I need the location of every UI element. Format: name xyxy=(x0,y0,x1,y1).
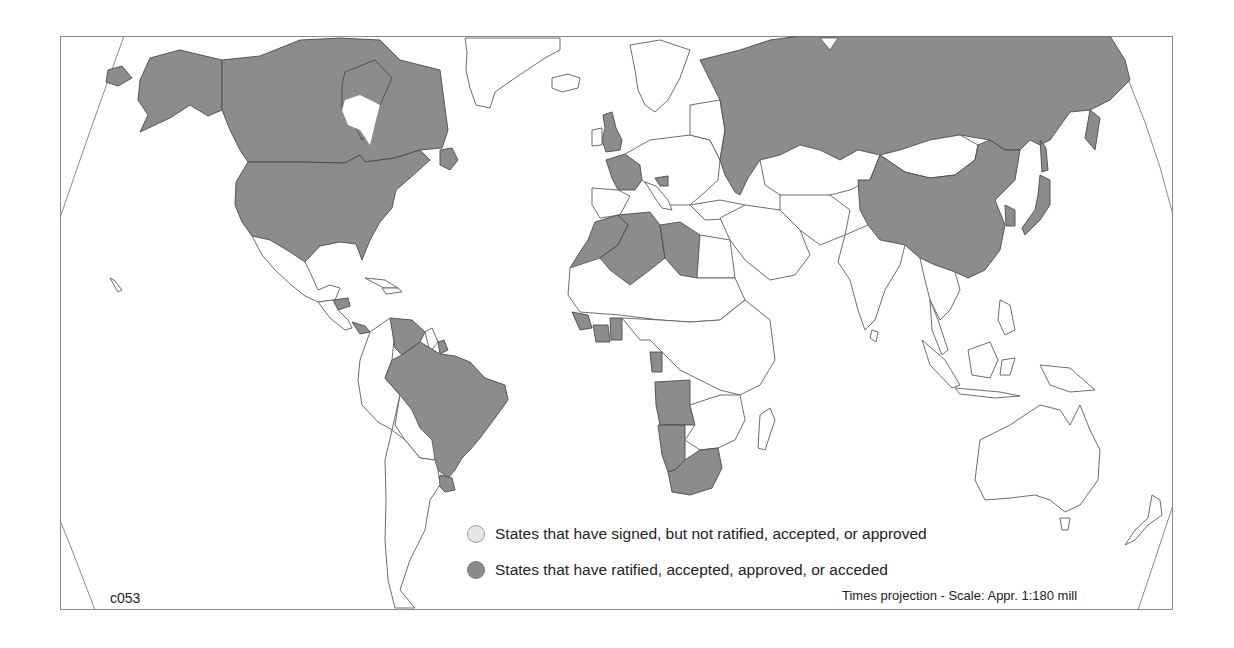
legend-item-ratified: States that have ratified, accepted, app… xyxy=(467,552,927,588)
ireland xyxy=(592,128,602,146)
new-zealand xyxy=(1125,495,1162,545)
projection-edge-left xyxy=(60,36,124,218)
south-korea xyxy=(1005,205,1015,226)
philippines xyxy=(998,300,1015,335)
cuba xyxy=(365,278,398,288)
angola xyxy=(655,380,695,425)
new-guinea xyxy=(1040,365,1095,392)
suriname xyxy=(438,340,448,354)
canada xyxy=(222,38,448,163)
projection-scale-note: Times projection - Scale: Appr. 1:180 mi… xyxy=(842,588,1077,603)
legend-label-signed: States that have signed, but not ratifie… xyxy=(495,525,927,543)
legend-label-ratified: States that have ratified, accepted, app… xyxy=(495,561,888,579)
greenland xyxy=(465,38,560,108)
iberia xyxy=(592,188,630,218)
egypt xyxy=(697,235,735,278)
gabon xyxy=(650,352,662,372)
southern-africa-east xyxy=(685,395,745,450)
guinea xyxy=(572,312,592,330)
ratified-swatch-icon xyxy=(467,561,485,579)
sulawesi xyxy=(1000,358,1015,375)
projection-edge-right-lower xyxy=(1138,505,1173,610)
kamchatka xyxy=(1085,110,1100,150)
sakhalin xyxy=(1040,140,1048,172)
united-kingdom xyxy=(602,112,622,152)
sri-lanka xyxy=(870,330,878,342)
hispaniola xyxy=(382,288,402,294)
tasmania xyxy=(1060,518,1070,530)
panama xyxy=(352,322,370,334)
borneo xyxy=(968,342,998,378)
japan xyxy=(1022,175,1050,235)
java xyxy=(955,388,1020,398)
scandinavia xyxy=(630,40,690,112)
map-code: c053 xyxy=(110,590,140,606)
iceland xyxy=(552,74,580,92)
legend-item-signed: States that have signed, but not ratifie… xyxy=(467,516,927,552)
signed-swatch-icon xyxy=(467,525,485,543)
uruguay xyxy=(438,475,455,492)
newfoundland xyxy=(440,148,458,170)
cote-divoire xyxy=(593,325,610,342)
madagascar xyxy=(758,408,775,450)
alaska xyxy=(138,50,222,132)
hawaii xyxy=(110,278,122,292)
chukotka-fragment xyxy=(106,66,132,86)
australia xyxy=(975,405,1100,512)
legend: States that have signed, but not ratifie… xyxy=(467,516,927,588)
ghana xyxy=(610,318,622,340)
projection-edge-left-lower xyxy=(60,520,95,610)
